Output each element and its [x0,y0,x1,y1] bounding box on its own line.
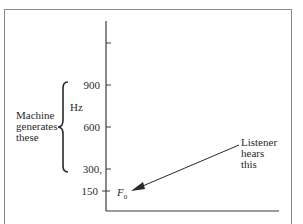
tick-label-600: 600 [70,122,100,133]
listener-annotation: Listener hears this [241,137,277,170]
tick-label-300: 300, [72,164,102,175]
fundamental-symbol: F [117,186,124,198]
bracket-label-line: these [16,132,58,143]
arrowhead-icon [131,182,145,191]
unit-label: Hz [70,102,83,113]
fundamental-subscript: 0 [124,193,128,201]
annotation-line: this [241,159,277,170]
tick-label-900: 900 [70,80,100,91]
curly-brace [58,82,68,172]
bracket-label: Machine generates these [16,110,58,143]
fundamental-label: F0 [117,186,127,201]
tick-label-150: 150 [68,186,98,197]
arrow-line [138,145,239,188]
